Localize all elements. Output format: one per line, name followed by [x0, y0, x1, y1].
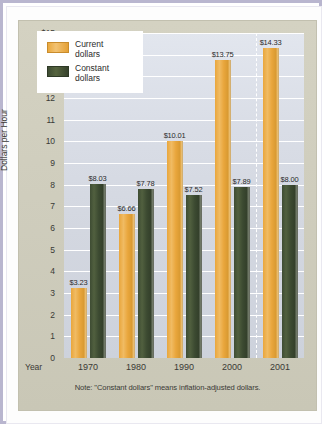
y-axis-tick-label: 4 [19, 266, 59, 276]
y-axis-tick-label: 9 [19, 158, 59, 168]
x-axis-tick-2000: 2000 [208, 362, 256, 372]
y-axis-tick-label: 7 [19, 201, 59, 211]
y-axis-tick-label: 12 [19, 93, 59, 103]
bar-value-label: $8.00 [274, 175, 306, 184]
legend-swatch-constant-dollars [47, 66, 69, 77]
y-axis-tick-label: 3 [19, 288, 59, 298]
bar-constant-1980 [138, 189, 154, 358]
legend-label-current-dollars: Currentdollars [75, 40, 103, 59]
bar-constant-1970 [90, 184, 106, 358]
bar-value-label: $13.75 [207, 50, 239, 59]
x-axis-tick-1970: 1970 [64, 362, 112, 372]
bar-value-label: $14.33 [255, 38, 287, 47]
y-axis-tick-label: 5 [19, 245, 59, 255]
legend-label-constant-dollars: Constantdollars [75, 64, 109, 83]
bar-constant-2000 [234, 187, 250, 358]
bar-current-2000 [215, 60, 231, 358]
x-axis-tick-1980: 1980 [112, 362, 160, 372]
bar-current-2001 [263, 48, 279, 358]
bar-value-label: $10.01 [159, 131, 191, 140]
bar-constant-1990 [186, 195, 202, 358]
legend-label-current-line1: Current [75, 39, 103, 49]
outer-frame: $1514131211109876543210 Dollars per Hour… [0, 0, 322, 424]
bar-current-1970 [71, 288, 87, 358]
legend-label-constant-line1: Constant [75, 63, 109, 73]
bar-value-label: $7.89 [226, 177, 258, 186]
bar-value-label: $7.78 [130, 179, 162, 188]
legend-item-current-dollars: Currentdollars [47, 40, 103, 59]
legend-label-constant-line2: dollars [75, 73, 100, 83]
chart-panel: $1514131211109876543210 Dollars per Hour… [19, 21, 316, 410]
y-axis-title: Dollars per Hour [0, 51, 9, 171]
y-axis-tick-label: 2 [19, 310, 59, 320]
legend-label-current-line2: dollars [75, 49, 100, 59]
bar-value-label: $3.23 [63, 278, 95, 287]
bar-value-label: $8.03 [82, 174, 114, 183]
bar-value-label: $7.52 [178, 185, 210, 194]
bar-value-label: $6.66 [111, 204, 143, 213]
x-axis-tick-1990: 1990 [160, 362, 208, 372]
bar-constant-2001 [282, 185, 298, 358]
y-axis-tick-label: 11 [19, 115, 59, 125]
bar-current-1980 [119, 214, 135, 358]
x-axis-title: Year [25, 362, 42, 372]
legend-swatch-current-dollars [47, 42, 69, 53]
inner-white-margin: $1514131211109876543210 Dollars per Hour… [6, 6, 322, 424]
bar-current-1990 [167, 141, 183, 358]
chart-note: Note: "Constant dollars" means inflation… [19, 383, 316, 392]
chart-legend: Currentdollars Constantdollars [37, 31, 143, 93]
x-axis-tick-2001: 2001 [256, 362, 304, 372]
y-axis-tick-label: 8 [19, 180, 59, 190]
y-axis-tick-label: 6 [19, 223, 59, 233]
legend-item-constant-dollars: Constantdollars [47, 64, 109, 83]
year-divider-dashed-line [256, 33, 257, 358]
y-axis-tick-label: 1 [19, 331, 59, 341]
y-axis-tick-label: 10 [19, 136, 59, 146]
